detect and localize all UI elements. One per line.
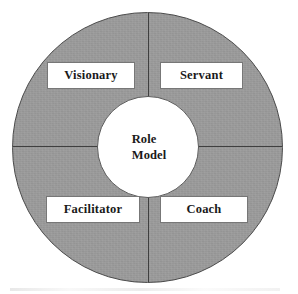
center-hub-label: Role Model <box>132 131 167 163</box>
center-hub-circle: Role Model <box>97 96 199 198</box>
scan-artifact-strip <box>10 288 280 291</box>
quadrant-label-coach: Coach <box>160 196 248 223</box>
quadrant-label-servant: Servant <box>160 62 243 89</box>
center-hub-label-line2: Model <box>132 147 167 163</box>
center-hub-label-line1: Role <box>132 131 167 147</box>
quadrant-label-visionary: Visionary <box>47 62 135 89</box>
diagram-canvas: Role Model Visionary Servant Facilitator… <box>0 0 298 294</box>
quadrant-label-facilitator: Facilitator <box>46 196 140 223</box>
